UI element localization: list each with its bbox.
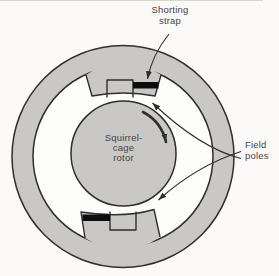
label-field-poles-line2: poles bbox=[245, 150, 269, 161]
label-rotor: Squirrel- cage rotor bbox=[91, 133, 156, 163]
label-shorting-strap-line2: strap bbox=[138, 15, 202, 26]
label-field-poles: Field poles bbox=[245, 139, 269, 161]
shaded-pole-motor-diagram: Shorting strap Field poles Squirrel- cag… bbox=[0, 0, 279, 276]
label-field-poles-line1: Field bbox=[245, 139, 269, 150]
label-shorting-strap: Shorting strap bbox=[138, 4, 202, 26]
shorting-strap-top bbox=[133, 82, 159, 89]
shorting-strap-bottom bbox=[83, 215, 111, 222]
label-rotor-line3: rotor bbox=[91, 153, 156, 163]
label-shorting-strap-line1: Shorting bbox=[138, 4, 202, 15]
